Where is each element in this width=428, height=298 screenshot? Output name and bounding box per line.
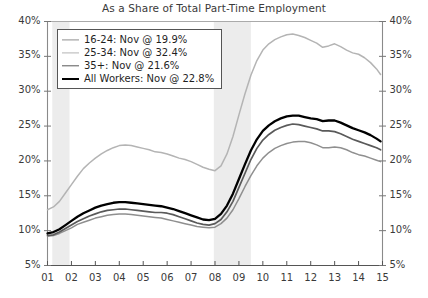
legend-line-glyph xyxy=(62,65,79,66)
legend-item-label: 25-34: Nov @ 32.4% xyxy=(84,47,187,58)
legend-item: 16-24: Nov @ 19.9% xyxy=(62,33,214,46)
chart-container: As a Share of Total Part-Time Employment… xyxy=(0,0,428,298)
y-axis-label-right: 20% xyxy=(390,154,428,165)
x-axis-label: 02 xyxy=(60,272,82,283)
legend-item-label: 35+: Nov @ 21.6% xyxy=(84,60,179,71)
legend-line-swatch xyxy=(62,60,79,71)
x-axis-label: 03 xyxy=(84,272,106,283)
legend-item: 25-34: Nov @ 32.4% xyxy=(62,46,214,59)
legend-line-glyph xyxy=(62,39,79,40)
y-axis-label-left: 15% xyxy=(5,189,41,200)
y-axis-label-right: 35% xyxy=(390,49,428,60)
y-axis-label-left: 40% xyxy=(5,15,41,26)
x-axis-label: 04 xyxy=(108,272,130,283)
legend-line-swatch xyxy=(62,73,79,84)
legend-line-glyph xyxy=(62,78,79,80)
legend-line-glyph xyxy=(62,52,79,53)
legend-item: All Workers: Nov @ 22.8% xyxy=(62,72,214,85)
chart-legend: 16-24: Nov @ 19.9%25-34: Nov @ 32.4%35+:… xyxy=(57,29,222,89)
y-axis-label-right: 15% xyxy=(390,189,428,200)
x-axis-label: 13 xyxy=(324,272,346,283)
y-axis-label-left: 5% xyxy=(5,259,41,270)
x-axis-label: 08 xyxy=(204,272,226,283)
legend-item-label: All Workers: Nov @ 22.8% xyxy=(84,73,214,84)
x-axis-label: 12 xyxy=(300,272,322,283)
x-axis-label: 11 xyxy=(276,272,298,283)
y-axis-label-right: 40% xyxy=(390,15,428,26)
x-axis-label: 05 xyxy=(132,272,154,283)
y-axis-label-right: 10% xyxy=(390,224,428,235)
y-axis-label-left: 20% xyxy=(5,154,41,165)
x-axis-label: 01 xyxy=(37,272,59,283)
legend-item: 35+: Nov @ 21.6% xyxy=(62,59,214,72)
x-axis-label: 09 xyxy=(228,272,250,283)
y-axis-label-left: 35% xyxy=(5,49,41,60)
y-axis-label-left: 10% xyxy=(5,224,41,235)
legend-line-swatch xyxy=(62,34,79,45)
x-axis-label: 06 xyxy=(156,272,178,283)
x-axis-label: 10 xyxy=(252,272,274,283)
x-axis-label: 14 xyxy=(348,272,370,283)
x-axis-label: 15 xyxy=(372,272,394,283)
y-axis-label-left: 30% xyxy=(5,84,41,95)
y-axis-label-left: 25% xyxy=(5,119,41,130)
y-axis-label-right: 25% xyxy=(390,119,428,130)
legend-line-swatch xyxy=(62,47,79,58)
y-axis-label-right: 5% xyxy=(390,259,428,270)
y-axis-label-right: 30% xyxy=(390,84,428,95)
legend-item-label: 16-24: Nov @ 19.9% xyxy=(84,34,187,45)
x-axis-label: 07 xyxy=(180,272,202,283)
